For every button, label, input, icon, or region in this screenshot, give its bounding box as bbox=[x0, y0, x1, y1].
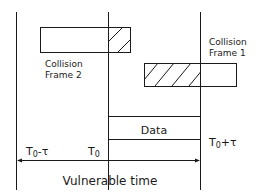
vulnerable-time-diagram: Collision Frame 2 Collision Frame 1 Data… bbox=[0, 0, 260, 195]
arrow-right-head bbox=[195, 159, 200, 163]
arrow-left-head bbox=[17, 159, 22, 163]
collision-frame-2: Collision Frame 2 bbox=[41, 27, 136, 80]
collision-frame-1: Collision Frame 1 bbox=[144, 37, 247, 87]
vulnerable-time-caption: Vulnerable time bbox=[63, 174, 158, 188]
collision-frame-2-label-line2: Frame 2 bbox=[45, 70, 82, 80]
time-label-t0-plus-tau: T0+τ bbox=[208, 136, 237, 150]
data-label: Data bbox=[141, 124, 167, 137]
time-label-t0-minus-tau: T0-τ bbox=[25, 145, 49, 159]
collision-frame-2-box bbox=[41, 28, 131, 53]
time-label-t0: T0 bbox=[87, 145, 100, 159]
collision-frame-2-label-line1: Collision bbox=[45, 59, 83, 69]
collision-frame-1-hatch bbox=[144, 63, 208, 86]
collision-frame-1-label-line1: Collision bbox=[209, 37, 247, 47]
collision-frame-1-label-line2: Frame 1 bbox=[209, 48, 246, 58]
data-frame: Data bbox=[108, 117, 200, 140]
collision-frame-1-box bbox=[145, 64, 237, 87]
